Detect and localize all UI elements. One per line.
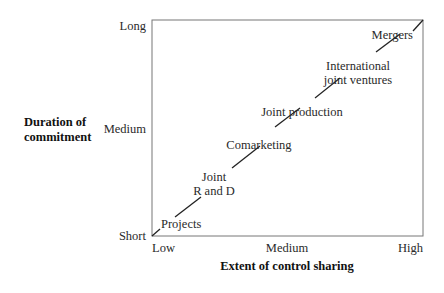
x-tick-low: Low — [152, 241, 175, 255]
diagonal-segment — [175, 197, 201, 217]
x-tick-medium: Medium — [266, 241, 309, 255]
y-tick-medium: Medium — [104, 122, 147, 136]
x-axis-title: Extent of control sharing — [220, 259, 354, 273]
label-joint-rd-line1: Joint — [202, 170, 227, 184]
diagonal-segment — [152, 229, 160, 236]
diagonal-segment — [413, 20, 423, 31]
label-projects: Projects — [161, 217, 201, 231]
label-international-jv-line2: joint ventures — [323, 73, 393, 87]
y-axis-title-line2: commitment — [24, 130, 92, 144]
label-joint-production: Joint production — [261, 105, 343, 119]
y-tick-short: Short — [119, 229, 147, 243]
label-joint-rd-line2: R and D — [193, 184, 235, 198]
y-tick-long: Long — [120, 19, 147, 33]
label-international-jv-line1: International — [326, 59, 390, 73]
strategic-alliance-diagram: Long Medium Short Duration of commitment… — [0, 0, 444, 293]
y-axis-title-line1: Duration of — [24, 115, 87, 129]
label-comarketing: Comarketing — [226, 138, 292, 152]
label-mergers: Mergers — [372, 28, 414, 42]
x-tick-high: High — [398, 241, 424, 255]
